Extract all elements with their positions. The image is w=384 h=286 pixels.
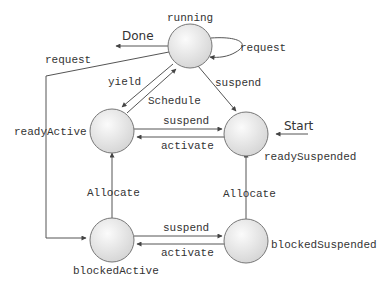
label-running-readysuspended-suspend: suspend — [215, 77, 261, 89]
state-diagram: running readyActive readySuspended block… — [0, 0, 384, 286]
label-state-readyactive: readyActive — [14, 126, 87, 138]
label-blockedsuspended-blockedactive-activate: activate — [161, 247, 214, 259]
label-start: Start — [284, 119, 314, 133]
label-state-running: running — [167, 12, 213, 24]
state-running — [168, 24, 212, 68]
label-running-self-request: request — [240, 42, 286, 54]
diagram-svg: running readyActive readySuspended block… — [0, 0, 384, 286]
label-readysuspended-readyactive-activate: activate — [161, 140, 214, 152]
label-done: Done — [122, 29, 154, 43]
label-blockedsuspended-allocate: Allocate — [223, 188, 276, 200]
state-blockedactive — [90, 218, 134, 262]
label-readyactive-readysuspended-suspend: suspend — [163, 115, 209, 127]
state-readysuspended — [224, 112, 268, 156]
label-yield: yield — [108, 76, 141, 88]
label-schedule: Schedule — [148, 95, 201, 107]
label-state-blockedactive: blockedActive — [73, 265, 159, 277]
label-blockedactive-blockedsuspended-suspend: suspend — [163, 222, 209, 234]
state-blockedsuspended — [224, 219, 268, 263]
label-state-readysuspended: readySuspended — [264, 151, 356, 163]
label-running-blockedactive-request: request — [45, 54, 91, 66]
label-state-blockedsuspended: blockedSuspended — [271, 239, 377, 251]
state-readyactive — [90, 109, 134, 153]
label-blockedactive-allocate: Allocate — [87, 187, 140, 199]
edge-running-self-request — [210, 38, 242, 58]
